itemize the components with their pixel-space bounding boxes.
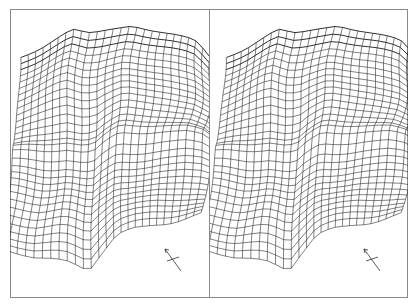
mesh-lines	[210, 27, 408, 269]
stereo-figure	[0, 0, 418, 307]
north-arrow-icon	[364, 249, 380, 271]
mesh-lines	[10, 27, 209, 269]
left-stereo-panel	[10, 10, 209, 297]
terrain-wireframe-left	[10, 10, 209, 297]
terrain-wireframe-right	[210, 10, 408, 297]
right-stereo-panel	[210, 10, 408, 297]
north-arrow-icon	[165, 249, 181, 271]
